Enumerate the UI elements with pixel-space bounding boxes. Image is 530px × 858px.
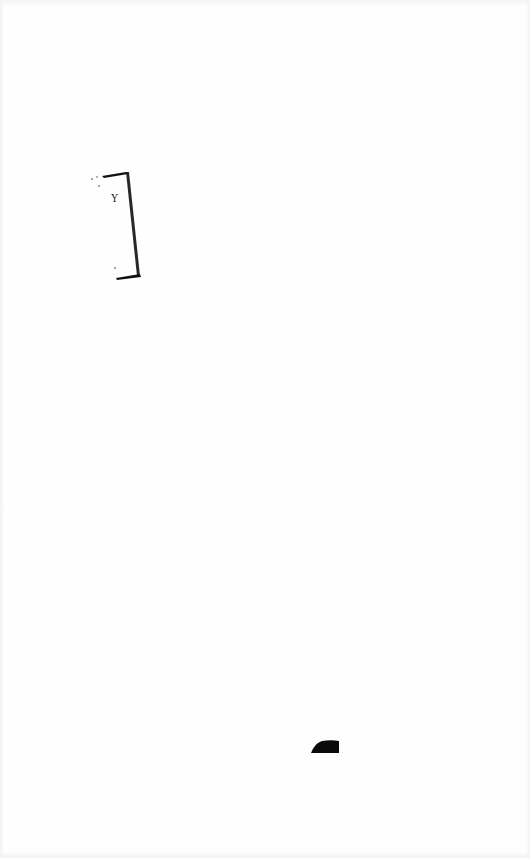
scan-edge-bottom [0, 852, 530, 858]
scan-edge-right [526, 0, 530, 858]
ink-blob-icon [310, 740, 340, 753]
bracket-label: Y [111, 193, 118, 204]
scanned-page: Y [0, 0, 530, 858]
scan-edge-left [0, 0, 4, 858]
bracket-mark-icon [88, 166, 148, 286]
scan-edge-top [0, 0, 530, 6]
